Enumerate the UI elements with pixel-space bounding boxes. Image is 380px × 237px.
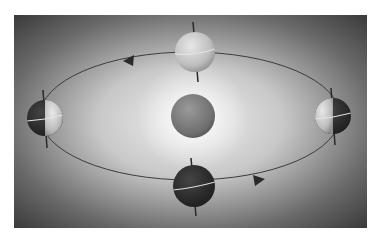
earth-orbit-diagram [0, 0, 380, 237]
sun [171, 94, 215, 138]
